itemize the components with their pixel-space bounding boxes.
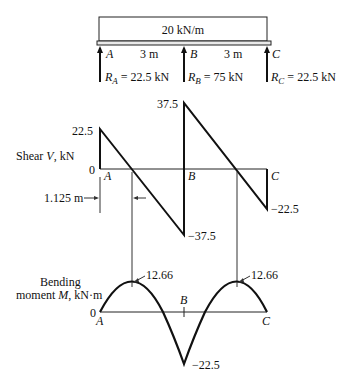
span-label-ab: 3 m: [140, 47, 159, 61]
diagram-canvas: 20 kN/m A 3 m B 3 m C RA = 22.5 kN RB = …: [0, 0, 344, 385]
moment-point-a: A: [95, 314, 104, 328]
arrowhead-b-icon: [181, 46, 187, 53]
moment-value-max-left: 12.66: [146, 268, 173, 282]
span-label-bc: 3 m: [224, 47, 243, 61]
support-label-b: B: [190, 47, 198, 61]
shear-zero-label: 0: [89, 163, 95, 177]
moment-point-b: B: [180, 293, 188, 307]
beam: [97, 41, 271, 45]
moment-axis-label-line2: moment M, kN·m: [16, 288, 103, 302]
support-label-a: A: [105, 47, 114, 61]
beam-diagram: 20 kN/m A 3 m B 3 m C RA = 22.5 kN RB = …: [97, 17, 336, 86]
shear-value-c-bottom: −22.5: [271, 202, 299, 216]
shear-point-c: C: [271, 169, 280, 183]
shear-point-b: B: [188, 169, 196, 183]
shear-value-a-top: 22.5: [72, 124, 93, 138]
moment-axis-label-line1: Bending: [40, 275, 81, 289]
moment-value-max-right: 12.66: [251, 268, 278, 282]
reaction-b-label: RB = 75 kN: [187, 70, 244, 86]
arrowhead-a-icon: [97, 46, 103, 53]
shear-axis-label: Shear V, kN: [16, 149, 75, 163]
moment-point-c: C: [262, 314, 271, 328]
shear-diagram: Shear V, kN 0 22.5 37.5 −37.5 −22.5 A B …: [16, 97, 299, 243]
dimension-arrowhead-left-icon: [94, 196, 99, 200]
support-label-c: C: [272, 47, 281, 61]
arrowhead-c-icon: [264, 46, 270, 53]
dimension-arrowhead-right-icon: [133, 196, 138, 200]
shear-point-a: A: [103, 169, 112, 183]
dimension-label: 1.125 m: [44, 191, 84, 205]
reaction-c-label: RC = 22.5 kN: [270, 70, 336, 86]
load-label: 20 kN/m: [162, 23, 205, 37]
reaction-a-label: RA = 22.5 kN: [104, 70, 170, 86]
shear-value-b-top: 37.5: [157, 97, 178, 111]
moment-diagram: Bending moment M, kN·m 0 A B C 12.66 12.…: [16, 268, 278, 372]
shear-value-b-bottom: −37.5: [188, 229, 216, 243]
moment-value-min-b: −22.5: [192, 358, 220, 372]
